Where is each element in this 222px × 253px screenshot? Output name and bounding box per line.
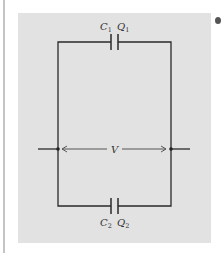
charge-q2-label: Q2: [117, 217, 129, 230]
capacitor-c1-label: C1: [100, 21, 112, 34]
capacitor-c2-label: C2: [100, 217, 112, 230]
junction-left: [56, 147, 60, 151]
circuit-diagram: V C1 Q1 C2 Q2: [0, 0, 222, 253]
capacitor-c2: [111, 198, 118, 214]
top-branch: [58, 42, 171, 206]
junction-right: [169, 147, 173, 151]
voltage-label: V: [111, 144, 120, 155]
capacitor-c1: [111, 34, 118, 50]
charge-q1-label: Q1: [117, 21, 129, 34]
